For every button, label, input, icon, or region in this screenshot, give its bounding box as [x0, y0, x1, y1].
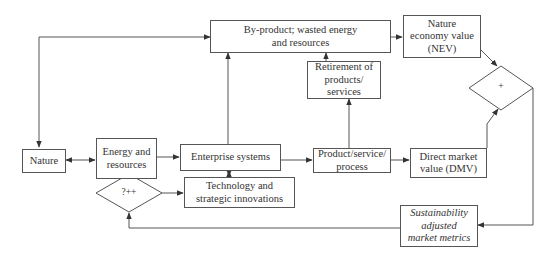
product-node: Product/service/ process [313, 148, 391, 173]
retirement-label-line3: services [327, 86, 361, 99]
retirement-node: Retirement of products/ services [307, 61, 381, 99]
sustainability-node: Sustainability adjusted market metrics [400, 205, 478, 247]
sustainability-label-line1: Sustainability [410, 207, 468, 220]
dmv-label-line1: Direct market [419, 151, 477, 164]
nature-node: Nature [22, 149, 66, 173]
dmv-label-line2: value (DMV) [420, 163, 477, 176]
byproduct-node: By-product; wasted energy and resources [210, 20, 391, 53]
byproduct-label-line1: By-product; wasted energy [244, 24, 358, 37]
enterprise-node: Enterprise systems [180, 144, 281, 171]
product-label-line1: Product/service/ [318, 148, 386, 161]
sustainability-label-line2: adjusted [421, 220, 457, 233]
byproduct-label-line2: and resources [272, 37, 329, 50]
qpp-decision-label: ?++ [114, 187, 144, 197]
nev-label-line2: economy value [410, 30, 474, 43]
energy-node: Energy and resources [96, 138, 157, 179]
technology-label-line1: Technology and [206, 180, 273, 193]
product-label-line2: process [336, 161, 368, 174]
technology-node: Technology and strategic innovations [184, 177, 295, 208]
sustainability-label-line3: market metrics [408, 232, 471, 245]
nev-label-line3: (NEV) [428, 43, 457, 56]
nev-label-line1: Nature [428, 18, 457, 31]
dmv-node: Direct market value (DMV) [410, 148, 487, 178]
technology-label-line2: strategic innovations [196, 193, 283, 206]
nev-node: Nature economy value (NEV) [403, 15, 481, 58]
retirement-label-line1: Retirement of [315, 61, 373, 74]
plus-decision-label: + [491, 81, 511, 91]
energy-label-line1: Energy and [103, 146, 151, 159]
energy-label-line2: resources [107, 159, 147, 172]
nature-label: Nature [30, 155, 59, 168]
retirement-label-line2: products/ [324, 74, 363, 87]
enterprise-label: Enterprise systems [191, 151, 270, 164]
